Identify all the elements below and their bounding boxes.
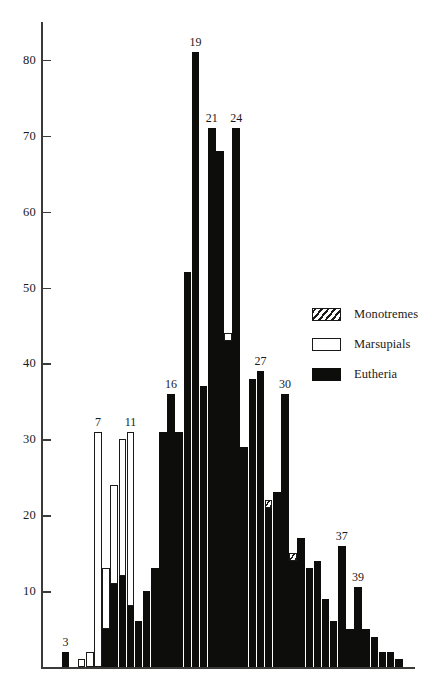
histogram-bar[interactable] bbox=[127, 432, 135, 667]
bar-value-label: 21 bbox=[206, 112, 218, 124]
bar-value-label: 3 bbox=[62, 636, 68, 648]
bar-value-label: 30 bbox=[279, 378, 291, 390]
bar-segment-marsupials bbox=[127, 432, 135, 607]
bar-segment-eutheria bbox=[346, 629, 354, 667]
y-tick-label: 50 bbox=[2, 282, 36, 294]
bar-segment-eutheria bbox=[338, 546, 346, 667]
histogram-bar[interactable] bbox=[362, 629, 370, 667]
histogram-bar[interactable] bbox=[151, 568, 159, 667]
bar-segment-eutheria bbox=[143, 591, 151, 667]
histogram-bar[interactable] bbox=[102, 568, 110, 667]
bar-segment-eutheria bbox=[240, 447, 248, 667]
y-tick-label-wrap: 50 bbox=[0, 282, 36, 294]
histogram-bar[interactable] bbox=[78, 659, 86, 667]
y-tick-label: 70 bbox=[2, 130, 36, 142]
histogram-bar[interactable] bbox=[232, 128, 240, 667]
y-tick-label: 10 bbox=[2, 585, 36, 597]
bar-value-label: 37 bbox=[336, 530, 348, 542]
bar-value-label: 19 bbox=[189, 36, 201, 48]
histogram-bar[interactable] bbox=[330, 621, 338, 667]
histogram-bar[interactable] bbox=[265, 500, 273, 667]
histogram-bar[interactable] bbox=[314, 561, 322, 667]
histogram-bar[interactable] bbox=[167, 394, 175, 667]
histogram-bar[interactable] bbox=[62, 652, 70, 667]
y-tick-label: 30 bbox=[2, 433, 36, 445]
bar-segment-eutheria bbox=[379, 652, 387, 667]
histogram-bar[interactable] bbox=[192, 52, 200, 667]
bar-segment-eutheria bbox=[135, 621, 143, 667]
histogram-bar[interactable] bbox=[159, 432, 167, 667]
bar-segment-marsupials bbox=[224, 333, 232, 341]
histogram-bar[interactable] bbox=[135, 621, 143, 667]
y-tick-label-wrap: 30 bbox=[0, 433, 36, 445]
y-tick-label: 60 bbox=[2, 206, 36, 218]
histogram-bar[interactable] bbox=[86, 652, 94, 667]
bar-segment-eutheria bbox=[167, 394, 175, 667]
y-tick-label-wrap: 70 bbox=[0, 130, 36, 142]
histogram-bar[interactable] bbox=[338, 546, 346, 667]
bar-segment-monotremes bbox=[289, 553, 297, 561]
bar-segment-monotremes bbox=[265, 500, 273, 508]
bar-segment-eutheria bbox=[289, 561, 297, 667]
histogram-bar[interactable] bbox=[322, 599, 330, 667]
bar-segment-marsupials bbox=[119, 439, 127, 576]
histogram-bar[interactable] bbox=[273, 492, 281, 667]
histogram-bar[interactable] bbox=[184, 272, 192, 667]
bar-segment-eutheria bbox=[62, 652, 70, 667]
bar-segment-eutheria bbox=[127, 606, 135, 667]
chart-legend: Monotremes Marsupials Eutheria bbox=[312, 303, 434, 393]
bar-segment-eutheria bbox=[330, 621, 338, 667]
y-tick-label-wrap: 10 bbox=[0, 585, 36, 597]
bar-segment-eutheria bbox=[387, 652, 395, 667]
bar-segment-eutheria bbox=[119, 576, 127, 667]
hatched-swatch-icon bbox=[312, 308, 341, 321]
histogram-bar[interactable] bbox=[94, 432, 102, 667]
legend-label-marsupials: Marsupials bbox=[354, 338, 411, 351]
histogram-bar[interactable] bbox=[297, 538, 305, 667]
bar-segment-marsupials bbox=[86, 652, 94, 667]
histogram-bar[interactable] bbox=[371, 637, 379, 667]
bar-segment-eutheria bbox=[306, 568, 314, 667]
legend-item-eutheria[interactable]: Eutheria bbox=[312, 363, 434, 385]
histogram-bar[interactable] bbox=[281, 394, 289, 667]
histogram-bar[interactable] bbox=[306, 568, 314, 667]
histogram-bar[interactable] bbox=[216, 151, 224, 667]
legend-item-marsupials[interactable]: Marsupials bbox=[312, 333, 434, 355]
bar-segment-eutheria bbox=[257, 371, 265, 667]
histogram-bar[interactable] bbox=[257, 371, 265, 667]
bar-segment-eutheria bbox=[151, 568, 159, 667]
bar-segment-eutheria bbox=[216, 151, 224, 667]
histogram-bar[interactable] bbox=[289, 553, 297, 667]
histogram-bar[interactable] bbox=[354, 587, 362, 667]
histogram-bar[interactable] bbox=[208, 128, 216, 667]
y-tick-label: 40 bbox=[2, 357, 36, 369]
bar-segment-eutheria bbox=[200, 386, 208, 667]
bar-segment-eutheria bbox=[395, 659, 403, 667]
bar-segment-marsupials bbox=[110, 485, 118, 584]
histogram-bar[interactable] bbox=[143, 591, 151, 667]
histogram-bar[interactable] bbox=[379, 652, 387, 667]
bar-segment-marsupials bbox=[78, 659, 86, 667]
bar-value-label: 27 bbox=[255, 355, 267, 367]
bar-segment-eutheria bbox=[322, 599, 330, 667]
histogram-bar[interactable] bbox=[240, 447, 248, 667]
bar-segment-marsupials bbox=[94, 432, 102, 667]
histogram-bar[interactable] bbox=[387, 652, 395, 667]
bar-segment-eutheria bbox=[297, 538, 305, 667]
histogram-bar[interactable] bbox=[175, 432, 183, 667]
legend-item-monotremes[interactable]: Monotremes bbox=[312, 303, 434, 325]
bar-segment-eutheria bbox=[192, 52, 200, 667]
histogram-bar[interactable] bbox=[119, 439, 127, 667]
histogram-bar[interactable] bbox=[249, 379, 257, 667]
bar-segment-eutheria bbox=[249, 379, 257, 667]
histogram-bar[interactable] bbox=[110, 485, 118, 667]
bar-value-label: 11 bbox=[125, 416, 137, 428]
histogram-bar[interactable] bbox=[200, 386, 208, 667]
bar-segment-eutheria bbox=[273, 492, 281, 667]
bar-value-label: 7 bbox=[95, 416, 101, 428]
bar-segment-eutheria bbox=[265, 508, 273, 667]
bar-segment-eutheria bbox=[175, 432, 183, 667]
histogram-bar[interactable] bbox=[395, 659, 403, 667]
histogram-bar[interactable] bbox=[346, 629, 354, 667]
histogram-bar[interactable] bbox=[224, 333, 232, 667]
